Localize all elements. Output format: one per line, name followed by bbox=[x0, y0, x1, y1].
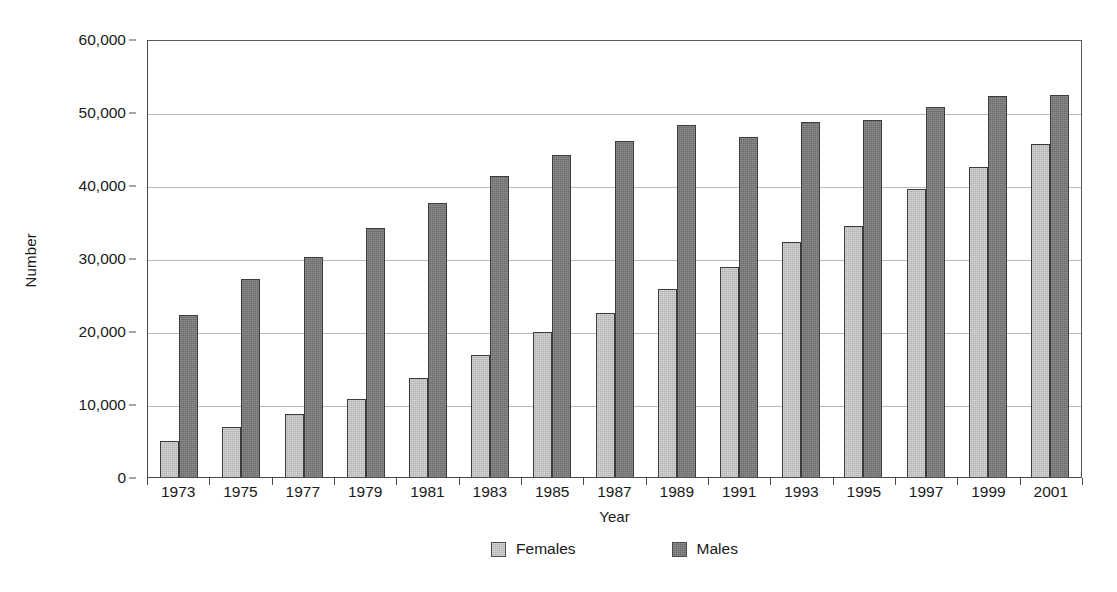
bar-females-1987[interactable] bbox=[596, 313, 615, 477]
legend-swatch-males bbox=[672, 542, 687, 557]
x-axis-tick-label: 1977 bbox=[272, 483, 334, 507]
bar-females-1997[interactable] bbox=[907, 189, 926, 477]
legend-label: Females bbox=[516, 540, 575, 558]
bar-females-1975[interactable] bbox=[222, 427, 241, 477]
year-group bbox=[646, 41, 708, 477]
x-axis-tick-label: 2001 bbox=[1020, 483, 1082, 507]
y-axis-tick-label: 30,000 bbox=[79, 250, 126, 268]
bar-females-1993[interactable] bbox=[782, 242, 801, 477]
y-axis-tick-mark bbox=[129, 332, 136, 333]
year-group bbox=[957, 41, 1019, 477]
x-axis-title: Year bbox=[147, 508, 1082, 525]
x-axis-tick-label: 1983 bbox=[459, 483, 521, 507]
plot-area bbox=[147, 40, 1082, 478]
bar-females-1973[interactable] bbox=[160, 441, 179, 478]
y-axis-tick-label: 40,000 bbox=[79, 177, 126, 195]
bar-males-1981[interactable] bbox=[428, 203, 447, 477]
legend-label: Males bbox=[697, 540, 738, 558]
bar-males-1987[interactable] bbox=[615, 141, 634, 477]
bar-females-1991[interactable] bbox=[720, 267, 739, 477]
chart-legend: FemalesMales bbox=[147, 540, 1082, 558]
x-axis-tick-label: 1973 bbox=[147, 483, 209, 507]
bar-females-1977[interactable] bbox=[285, 414, 304, 478]
bar-females-1985[interactable] bbox=[533, 332, 552, 477]
y-axis-tick-mark bbox=[129, 40, 136, 41]
year-group bbox=[832, 41, 894, 477]
year-group bbox=[272, 41, 334, 477]
bar-males-1983[interactable] bbox=[490, 176, 509, 477]
bars-layer bbox=[148, 41, 1081, 477]
year-group bbox=[335, 41, 397, 477]
y-axis-tick-label: 20,000 bbox=[79, 323, 126, 341]
year-group bbox=[210, 41, 272, 477]
year-group bbox=[521, 41, 583, 477]
legend-swatch-females bbox=[491, 542, 506, 557]
y-axis-tick-mark bbox=[129, 259, 136, 260]
year-group bbox=[894, 41, 956, 477]
bar-females-1983[interactable] bbox=[471, 355, 490, 477]
y-axis-tick-label: 60,000 bbox=[79, 31, 126, 49]
x-axis-tick-label: 1981 bbox=[396, 483, 458, 507]
year-group bbox=[1019, 41, 1081, 477]
x-axis-tick-mark bbox=[1082, 478, 1083, 485]
x-axis-tick-label: 1989 bbox=[646, 483, 708, 507]
bar-males-1991[interactable] bbox=[739, 137, 758, 477]
bar-males-1973[interactable] bbox=[179, 315, 198, 477]
bar-males-1993[interactable] bbox=[801, 122, 820, 478]
x-axis-tick-label: 1997 bbox=[895, 483, 957, 507]
bar-females-1995[interactable] bbox=[844, 226, 863, 477]
y-axis-tick-label: 50,000 bbox=[79, 104, 126, 122]
bar-females-1981[interactable] bbox=[409, 378, 428, 477]
legend-entry-females[interactable]: Females bbox=[491, 540, 575, 558]
y-axis-tick-mark bbox=[129, 186, 136, 187]
x-axis-tick-label: 1987 bbox=[583, 483, 645, 507]
x-axis-tick-label: 1995 bbox=[833, 483, 895, 507]
x-axis-tick-label: 1979 bbox=[334, 483, 396, 507]
year-group bbox=[583, 41, 645, 477]
y-axis-title-text: Number bbox=[22, 233, 39, 288]
bar-females-1999[interactable] bbox=[969, 167, 988, 477]
x-axis-tick-label: 1999 bbox=[957, 483, 1019, 507]
bar-females-2001[interactable] bbox=[1031, 144, 1050, 477]
legend-entry-males[interactable]: Males bbox=[672, 540, 738, 558]
x-axis-tick-label: 1991 bbox=[708, 483, 770, 507]
bar-males-1975[interactable] bbox=[241, 279, 260, 477]
year-group bbox=[708, 41, 770, 477]
x-axis-tick-labels: 1973197519771979198119831985198719891991… bbox=[147, 483, 1082, 507]
year-group bbox=[148, 41, 210, 477]
year-group bbox=[397, 41, 459, 477]
bar-females-1979[interactable] bbox=[347, 399, 366, 477]
bar-chart: Number 010,00020,00030,00040,00050,00060… bbox=[0, 0, 1117, 592]
bar-males-2001[interactable] bbox=[1050, 95, 1069, 477]
x-axis-tick-label: 1975 bbox=[209, 483, 271, 507]
bar-males-1979[interactable] bbox=[366, 228, 385, 477]
y-axis-tick-label: 0 bbox=[117, 469, 126, 487]
bar-males-1977[interactable] bbox=[304, 257, 323, 477]
x-axis-tick-label: 1985 bbox=[521, 483, 583, 507]
y-axis-tick-mark bbox=[129, 405, 136, 406]
bar-males-1997[interactable] bbox=[926, 107, 945, 477]
x-axis-tick-label: 1993 bbox=[770, 483, 832, 507]
bar-males-1985[interactable] bbox=[552, 155, 571, 477]
year-group bbox=[459, 41, 521, 477]
year-group bbox=[770, 41, 832, 477]
y-axis-tick-mark bbox=[129, 478, 136, 479]
y-axis-tick-mark bbox=[129, 113, 136, 114]
bar-males-1989[interactable] bbox=[677, 125, 696, 477]
y-axis-tick-labels: 010,00020,00030,00040,00050,00060,000 bbox=[42, 40, 136, 478]
y-axis-tick-label: 10,000 bbox=[79, 396, 126, 414]
bar-males-1999[interactable] bbox=[988, 96, 1007, 477]
bar-males-1995[interactable] bbox=[863, 120, 882, 477]
bar-females-1989[interactable] bbox=[658, 289, 677, 477]
